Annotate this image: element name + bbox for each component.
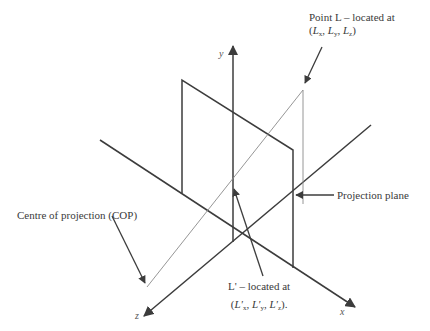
point-l-coords: (Lx, Ly, Lz) <box>309 24 395 41</box>
point-l-label-title: Point L – located at <box>309 11 395 24</box>
point-lprime-leader-arrow <box>234 189 263 276</box>
x-axis-label: x <box>340 306 344 317</box>
point-lprime-label: L' – located at (L'x, L'y, L'z). <box>228 280 290 315</box>
projection-plane <box>182 80 293 268</box>
cop-label: Centre of projection (COP) <box>17 209 137 222</box>
point-lprime-coords: (L'x, L'y, L'z). <box>228 298 290 315</box>
point-l-label: Point L – located at (Lx, Ly, Lz) <box>309 11 395 41</box>
z-axis-label: z <box>135 310 139 321</box>
point-l-leader-arrow <box>305 47 322 83</box>
y-axis-label: y <box>219 48 223 59</box>
projection-plane-label: Projection plane <box>337 189 409 202</box>
cop-leader-arrow <box>112 216 145 283</box>
projection-diagram <box>0 0 430 331</box>
point-lprime-label-title: L' – located at <box>228 280 290 293</box>
